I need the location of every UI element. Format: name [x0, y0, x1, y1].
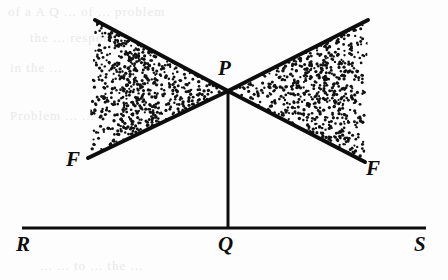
stipple-region-left [89, 22, 221, 151]
point-label-s: S [414, 234, 426, 255]
point-label-r: R [16, 234, 30, 255]
geometry-figure: of a A Q ... of ... problem the ... resp… [0, 0, 448, 280]
stipple-region-right [235, 24, 369, 158]
point-label-q: Q [218, 234, 233, 255]
point-label-p: P [218, 58, 231, 79]
ray-p-to-upper-left [95, 20, 228, 91]
point-label-f-right: F [366, 158, 380, 179]
point-label-f-left: F [66, 149, 80, 170]
